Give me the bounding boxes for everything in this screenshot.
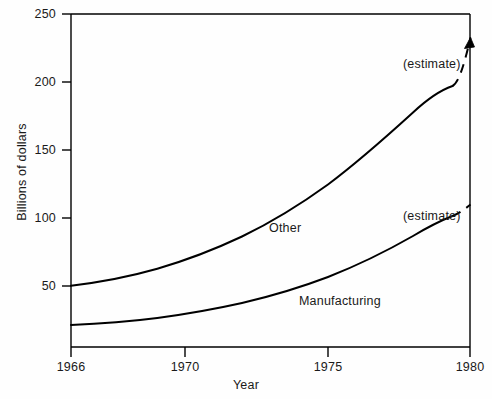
- series-line-manufacturing: [71, 216, 453, 325]
- x-tick-label-1980: 1980: [440, 360, 492, 374]
- annotation-estimate-manufacturing: (estimate): [403, 209, 461, 223]
- chart-figure: 250 200 150 100 50 1966 1970 1975 1980 B…: [0, 0, 492, 399]
- x-tick-label-1970: 1970: [155, 360, 215, 374]
- y-tick-label-200: 200: [16, 75, 56, 89]
- y-axis-title: Billions of dollars: [15, 102, 29, 242]
- series-label-manufacturing: Manufacturing: [299, 294, 381, 308]
- y-tick-label-250: 250: [16, 7, 56, 21]
- y-tick-label-50: 50: [16, 279, 56, 293]
- series-other-arrowhead: [465, 38, 475, 49]
- x-tick-label-1966: 1966: [41, 360, 101, 374]
- annotation-estimate-other: (estimate): [403, 57, 461, 71]
- series-label-other: Other: [269, 221, 301, 235]
- series-line-other: [71, 86, 453, 286]
- x-axis-title: Year: [0, 378, 492, 392]
- x-tick-label-1975: 1975: [298, 360, 358, 374]
